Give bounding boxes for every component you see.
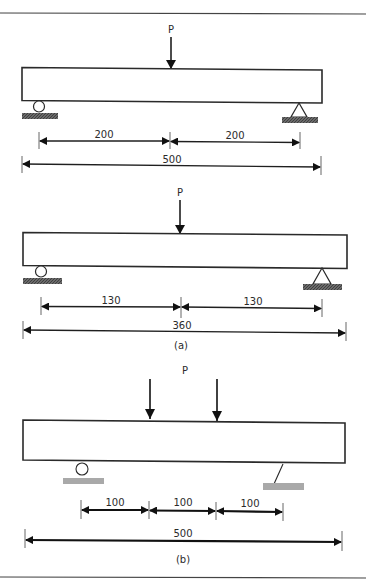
dim-label-total: 500: [162, 154, 181, 165]
load-label-p: P: [177, 187, 183, 198]
dim-label: 100: [105, 497, 124, 508]
roller-support-icon: [34, 101, 45, 112]
ground-pad-right: [263, 483, 304, 490]
dim-label: 130: [101, 295, 120, 306]
dim-line-span-3: [217, 511, 282, 512]
dim-line-span-2: [150, 511, 215, 512]
top-rule: [0, 13, 366, 14]
diagram-1: P 200 200 500: [22, 24, 322, 175]
figure-caption-a: (a): [174, 340, 188, 351]
beam-diagrams-figure: P 200 200 500 P 130 130: [0, 0, 366, 588]
load-arrowhead-icon: [145, 409, 155, 419]
dim-label: 100: [240, 498, 259, 509]
dim-line-span-2: [182, 307, 321, 309]
load-arrowhead-icon: [166, 60, 176, 69]
dim-label: 100: [173, 497, 192, 508]
beam: [22, 68, 322, 104]
dim-line-span-2: [171, 142, 299, 143]
figure-caption-b: (b): [176, 554, 190, 565]
roller-support-icon: [76, 463, 88, 475]
ground-pad-left: [63, 478, 104, 484]
ground-hatch-left: [23, 278, 62, 284]
beam: [23, 420, 345, 463]
pin-support-icon: [274, 464, 292, 484]
dim-label-total: 500: [173, 528, 192, 539]
pin-support-icon: [291, 103, 307, 117]
dim-label: 200: [94, 129, 113, 140]
dim-line-span-1: [42, 307, 180, 308]
dim-label: 200: [225, 130, 244, 141]
dim-label-total: 360: [172, 320, 191, 331]
diagram-b: P 100 100 100 500 (b): [23, 365, 345, 565]
ground-hatch-left: [22, 113, 58, 119]
bottom-rule: [0, 577, 366, 578]
dim-line-total: [26, 540, 341, 542]
beam: [23, 233, 347, 269]
load-arrowhead-icon: [175, 225, 185, 234]
ground-hatch-right: [282, 117, 318, 123]
diagram-a: P 130 130 360 (a): [23, 187, 347, 351]
load-label-p: P: [168, 24, 174, 35]
load-label-p: P: [182, 365, 188, 376]
ground-hatch-right: [303, 284, 342, 290]
roller-support-icon: [36, 266, 47, 277]
pin-support-icon: [313, 268, 331, 284]
dim-label: 130: [243, 296, 262, 307]
load-arrowhead-icon: [212, 411, 222, 421]
